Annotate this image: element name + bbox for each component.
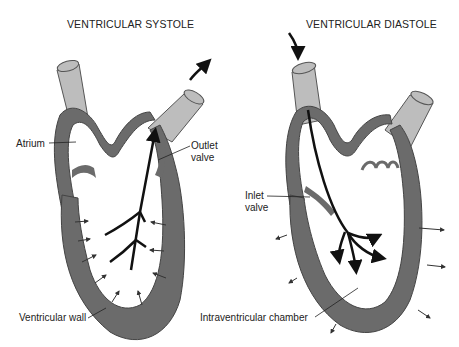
diastole-outlet-vessel bbox=[385, 88, 435, 148]
ventricular-wall-label: Ventricular wall bbox=[19, 312, 86, 324]
systole-title: VENTRICULAR SYSTOLE bbox=[67, 18, 194, 30]
outlet-valve-label: Outlet valve bbox=[191, 140, 218, 164]
atrium-leader bbox=[49, 142, 76, 143]
outlet-valve-label-line1: Outlet bbox=[191, 140, 218, 152]
diastole-flow-arrows bbox=[308, 110, 382, 270]
systole-atrium-wall bbox=[54, 108, 155, 210]
systole-exit-arrow bbox=[190, 62, 208, 80]
diastole-title: VENTRICULAR DIASTOLE bbox=[306, 18, 437, 30]
systole-inlet-valve bbox=[72, 165, 96, 178]
systole-heart bbox=[49, 58, 208, 339]
inlet-valve-label-line1: Inlet bbox=[245, 190, 268, 202]
diastole-entry-arrow bbox=[289, 33, 298, 56]
systole-ventricular-wall bbox=[61, 125, 184, 340]
heart-diagram bbox=[0, 0, 459, 347]
diastole-outlet-valve bbox=[362, 162, 398, 170]
inlet-valve-label-line2: valve bbox=[245, 202, 268, 214]
outlet-valve-label-line2: valve bbox=[191, 152, 218, 164]
inlet-valve-label: Inlet valve bbox=[245, 190, 268, 214]
diastole-heart bbox=[267, 33, 445, 333]
atrium-label: Atrium bbox=[16, 138, 45, 150]
diastole-atrium-wall bbox=[286, 106, 392, 205]
diastole-ventricular-wall bbox=[290, 125, 422, 333]
intraventricular-chamber-label: Intraventricular chamber bbox=[200, 312, 308, 324]
